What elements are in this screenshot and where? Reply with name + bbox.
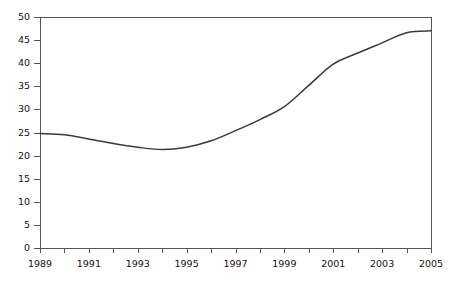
x-tick-label: 2005 <box>411 258 449 269</box>
x-tick-label: 1997 <box>216 258 256 269</box>
x-tick-label: 2003 <box>362 258 402 269</box>
x-tick-mark <box>284 248 285 253</box>
y-tick-label: 25 <box>0 128 30 138</box>
x-tick-label: 1989 <box>20 258 60 269</box>
series-1-path <box>40 31 431 150</box>
x-tick-mark <box>236 248 237 253</box>
x-tick-label: 1991 <box>69 258 109 269</box>
y-tick-mark <box>34 109 40 110</box>
y-tick-mark <box>34 156 40 157</box>
data-series-line <box>0 0 449 287</box>
x-tick-mark <box>89 248 90 253</box>
x-tick-label: 2001 <box>313 258 353 269</box>
x-tick-mark <box>113 248 114 253</box>
y-tick-mark <box>34 40 40 41</box>
y-tick-mark <box>34 63 40 64</box>
y-tick-label: 5 <box>0 220 30 230</box>
y-tick-mark <box>34 202 40 203</box>
x-tick-mark <box>309 248 310 253</box>
x-tick-label: 1993 <box>118 258 158 269</box>
y-tick-label: 30 <box>0 104 30 114</box>
y-tick-label: 50 <box>0 12 30 22</box>
plot-frame-right-border <box>431 17 432 249</box>
y-tick-label: 35 <box>0 81 30 91</box>
x-tick-mark <box>162 248 163 253</box>
x-tick-mark <box>431 248 432 253</box>
x-tick-mark <box>40 248 41 253</box>
x-tick-mark <box>138 248 139 253</box>
y-tick-label: 45 <box>0 35 30 45</box>
x-tick-mark <box>333 248 334 253</box>
y-tick-label: 10 <box>0 197 30 207</box>
x-tick-mark <box>358 248 359 253</box>
x-tick-mark <box>407 248 408 253</box>
x-tick-label: 1999 <box>264 258 304 269</box>
x-tick-mark <box>211 248 212 253</box>
y-tick-label: 0 <box>0 243 30 253</box>
x-tick-label: 1995 <box>167 258 207 269</box>
y-axis-line <box>40 17 41 249</box>
x-tick-mark <box>187 248 188 253</box>
y-tick-label: 40 <box>0 58 30 68</box>
y-tick-mark <box>34 17 40 18</box>
x-tick-mark <box>382 248 383 253</box>
y-tick-mark <box>34 133 40 134</box>
y-tick-mark <box>34 179 40 180</box>
y-tick-label: 15 <box>0 174 30 184</box>
line-chart: 05101520253035404550 1989199119931995199… <box>0 0 449 287</box>
plot-frame-top-border <box>40 17 432 18</box>
x-tick-mark <box>260 248 261 253</box>
x-tick-mark <box>64 248 65 253</box>
y-tick-label: 20 <box>0 151 30 161</box>
y-tick-mark <box>34 86 40 87</box>
y-tick-mark <box>34 225 40 226</box>
